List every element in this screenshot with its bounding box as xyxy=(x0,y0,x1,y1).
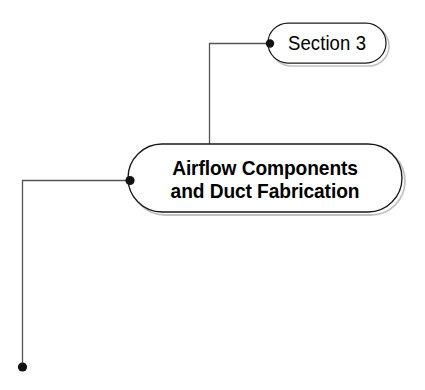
diagram-vector-layer xyxy=(0,0,425,390)
left-branch-terminal-dot xyxy=(18,362,27,371)
main-node-junction-dot xyxy=(125,176,134,185)
section-node-shape[interactable] xyxy=(268,23,386,63)
connector-line-section xyxy=(210,44,269,146)
connector-section-to-main xyxy=(210,44,269,146)
section-node-junction-dot xyxy=(266,39,274,47)
diagram-canvas: Airflow Components and Duct Fabrication … xyxy=(0,0,425,390)
main-node-shape[interactable] xyxy=(128,144,402,212)
connector-line-left-branch xyxy=(23,181,131,366)
main-node[interactable] xyxy=(128,144,405,215)
section-node[interactable] xyxy=(268,23,389,66)
connector-main-to-left-branch xyxy=(23,181,131,366)
